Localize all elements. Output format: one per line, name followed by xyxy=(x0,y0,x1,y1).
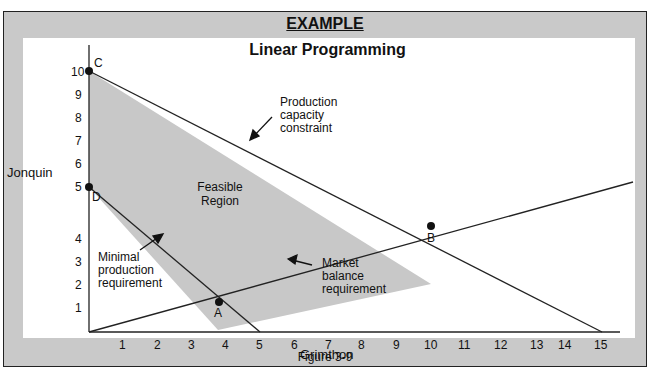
x-tick: 13 xyxy=(530,338,543,352)
annotation-line: requirement xyxy=(98,277,162,290)
x-tick: 15 xyxy=(594,338,607,352)
x-tick: 6 xyxy=(291,338,298,352)
x-tick: 11 xyxy=(458,338,470,352)
x-tick: 8 xyxy=(358,338,365,352)
annotation-capacity: Production capacity constraint xyxy=(280,96,337,135)
y-tick: 7 xyxy=(75,134,82,148)
point-label-c: C xyxy=(94,56,103,70)
x-tick: 14 xyxy=(558,338,571,352)
y-tick: 5 xyxy=(75,180,82,194)
y-tick: 8 xyxy=(75,111,82,125)
x-tick: 9 xyxy=(393,338,400,352)
y-tick: 4 xyxy=(75,232,82,246)
y-tick: 9 xyxy=(75,88,82,102)
x-tick: 12 xyxy=(494,338,507,352)
feasible-region-label: Feasible Region xyxy=(190,180,250,208)
y-tick: 10 xyxy=(71,65,84,79)
annotation-market: Market balance requirement xyxy=(322,257,386,296)
y-axis-label: Jonquin xyxy=(7,165,53,180)
annotation-line: requirement xyxy=(322,283,386,296)
x-tick: 10 xyxy=(424,338,437,352)
x-tick: 1 xyxy=(119,338,126,352)
annotation-minimal: Minimal production requirement xyxy=(98,251,162,290)
x-tick: 2 xyxy=(154,338,161,352)
y-tick: 6 xyxy=(75,157,82,171)
point-label-b: B xyxy=(427,231,435,245)
x-tick: 4 xyxy=(222,338,229,352)
annotation-line: constraint xyxy=(280,122,337,135)
x-tick: 7 xyxy=(325,338,332,352)
point-label-a: A xyxy=(214,306,222,320)
y-tick: 1 xyxy=(75,301,82,315)
point-label-d: D xyxy=(92,190,101,204)
x-tick: 5 xyxy=(256,338,263,352)
x-tick: 3 xyxy=(188,338,195,352)
y-tick: 3 xyxy=(75,255,82,269)
y-tick: 2 xyxy=(75,278,82,292)
feasible-region-text: Feasible Region xyxy=(190,180,250,208)
